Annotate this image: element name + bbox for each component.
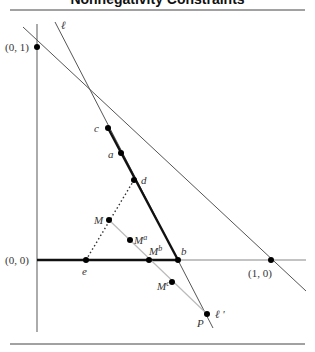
label-a: a [108, 148, 114, 160]
label-b: b [181, 245, 187, 257]
label-d: d [141, 174, 147, 186]
figure-title: Nonnegativity Constraints [0, 0, 315, 7]
point-e [83, 257, 89, 263]
point-M [106, 217, 112, 223]
simplex-line [23, 27, 306, 291]
label-c: c [94, 122, 99, 134]
label-Mb: Mb [148, 244, 162, 257]
label-line-l: ℓ [61, 19, 66, 31]
point-Mc [169, 279, 175, 285]
point-P [204, 311, 210, 317]
point-y-unit [34, 44, 40, 50]
line-M-P [109, 220, 207, 314]
label-x-unit: (1, 0) [248, 267, 272, 280]
point-d [131, 177, 137, 183]
point-b [175, 257, 181, 263]
point-a [118, 150, 124, 156]
label-e: e [82, 265, 87, 277]
point-x-unit [268, 257, 274, 263]
label-y-unit: (0, 1) [5, 41, 29, 54]
label-M: M [93, 214, 104, 226]
diagram-canvas: (0, 1) (0, 0) (1, 0) ℓ ℓ ' c a d b e M M… [0, 0, 315, 352]
point-Mb [146, 257, 152, 263]
label-Mc: Mc [156, 279, 170, 292]
label-origin: (0, 0) [5, 254, 29, 267]
point-Ma [127, 237, 133, 243]
label-line-l-prime: ℓ ' [215, 308, 225, 320]
label-P: P [196, 317, 204, 329]
diagram-figure: Nonnegativity Constraints [0, 0, 315, 352]
label-Ma: Ma [133, 233, 147, 246]
point-c [105, 125, 111, 131]
